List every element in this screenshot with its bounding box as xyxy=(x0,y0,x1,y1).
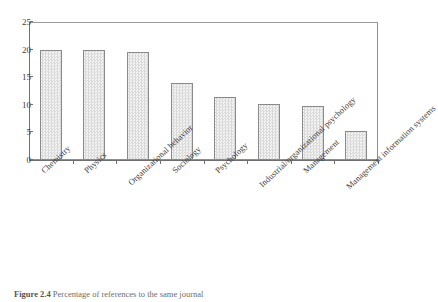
y-tick-mark xyxy=(30,131,33,132)
plot-frame xyxy=(29,22,378,160)
y-tick-label: 15 xyxy=(0,72,35,82)
x-tick-mark xyxy=(334,161,335,164)
y-tick-label: 10 xyxy=(0,100,35,110)
bar xyxy=(40,50,62,160)
bar xyxy=(345,131,367,160)
y-tick-mark xyxy=(30,104,33,105)
y-tick-mark xyxy=(30,159,33,160)
y-tick-label: 20 xyxy=(0,45,35,55)
y-tick-label: 5 xyxy=(0,127,35,137)
y-tick-25: 25 xyxy=(0,17,35,27)
figure-caption: Figure 2.4 Percentage of references to t… xyxy=(14,289,394,300)
caption-number: Figure 2.4 xyxy=(14,289,51,299)
x-tick-mark xyxy=(247,161,248,164)
y-tick-5: 5 xyxy=(0,127,35,137)
x-tick-mark xyxy=(73,161,74,164)
y-tick-label: 0 xyxy=(0,155,35,165)
y-tick-15: 15 xyxy=(0,72,35,82)
y-tick-10: 10 xyxy=(0,100,35,110)
bar xyxy=(258,104,280,160)
y-tick-mark xyxy=(30,49,33,50)
y-axis-line xyxy=(29,22,30,161)
y-tick-0: 0 xyxy=(0,155,35,165)
x-tick-mark xyxy=(116,161,117,164)
bar xyxy=(83,50,105,160)
y-tick-20: 20 xyxy=(0,45,35,55)
bar xyxy=(127,52,149,160)
x-tick-mark xyxy=(204,161,205,164)
y-tick-mark xyxy=(30,21,33,22)
y-tick-mark xyxy=(30,76,33,77)
caption-text: Percentage of references to the same jou… xyxy=(53,289,204,299)
y-tick-label: 25 xyxy=(0,17,35,27)
